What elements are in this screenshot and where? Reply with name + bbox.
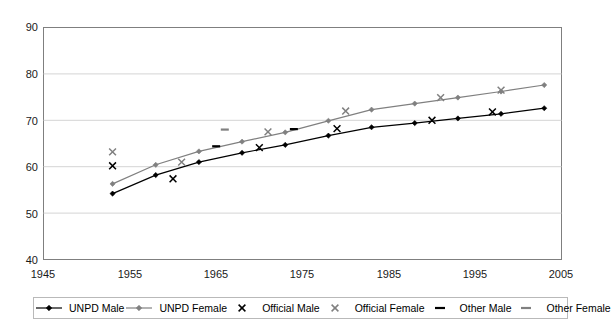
legend-label: Official Male xyxy=(261,302,320,314)
legend-label: UNPD Male xyxy=(68,302,124,314)
legend-item-other-female[interactable]: Other Female xyxy=(511,302,610,314)
legend-label: UNPD Female xyxy=(158,302,227,314)
dash-marker-icon xyxy=(511,302,541,314)
legend-item-official-female[interactable]: Official Female xyxy=(320,302,425,314)
legend-item-other-male[interactable]: Other Male xyxy=(425,302,512,314)
legend-item-unpd-female[interactable]: UNPD Female xyxy=(124,302,227,314)
legend-label: Other Female xyxy=(545,302,610,314)
legend-label: Other Male xyxy=(459,302,512,314)
dash-marker-icon xyxy=(425,302,455,314)
x-marker-icon xyxy=(320,302,350,314)
plot-frame xyxy=(44,28,562,260)
line-diamond-icon xyxy=(34,302,64,314)
x-marker-icon xyxy=(227,302,257,314)
line-diamond-icon xyxy=(124,302,154,314)
legend-item-unpd-male[interactable]: UNPD Male xyxy=(34,302,124,314)
legend-item-official-male[interactable]: Official Male xyxy=(227,302,320,314)
chart-legend: UNPD MaleUNPD FemaleOfficial MaleOfficia… xyxy=(33,297,568,319)
legend-label: Official Female xyxy=(354,302,425,314)
